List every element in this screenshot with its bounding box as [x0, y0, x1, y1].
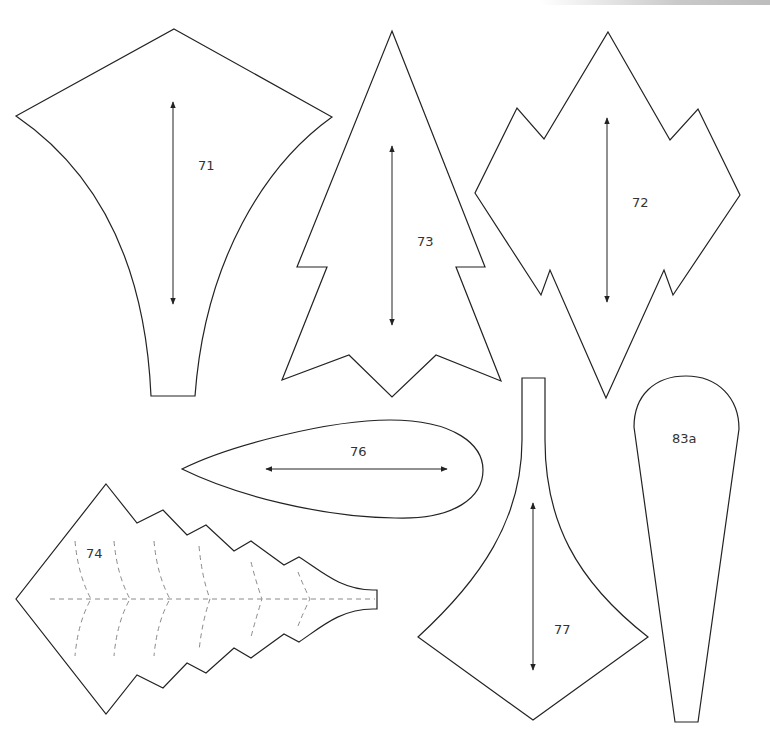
piece-73: 73 [282, 31, 501, 397]
piece-label-74: 74 [86, 546, 103, 561]
piece-label-83a: 83a [672, 431, 697, 446]
piece-label-73: 73 [417, 234, 434, 249]
piece-77: 77 [418, 378, 648, 720]
piece-83a: 83a [634, 376, 739, 722]
piece-76: 76 [182, 420, 483, 518]
piece-label-71: 71 [198, 158, 215, 173]
piece-label-76: 76 [350, 444, 367, 459]
piece-74: 74 [16, 484, 377, 714]
template-sheet: 71 73 72 76 74 77 [0, 0, 770, 736]
piece-71: 71 [16, 29, 332, 396]
piece-label-77: 77 [554, 622, 571, 637]
piece-72: 72 [475, 32, 740, 398]
piece-label-72: 72 [632, 195, 649, 210]
